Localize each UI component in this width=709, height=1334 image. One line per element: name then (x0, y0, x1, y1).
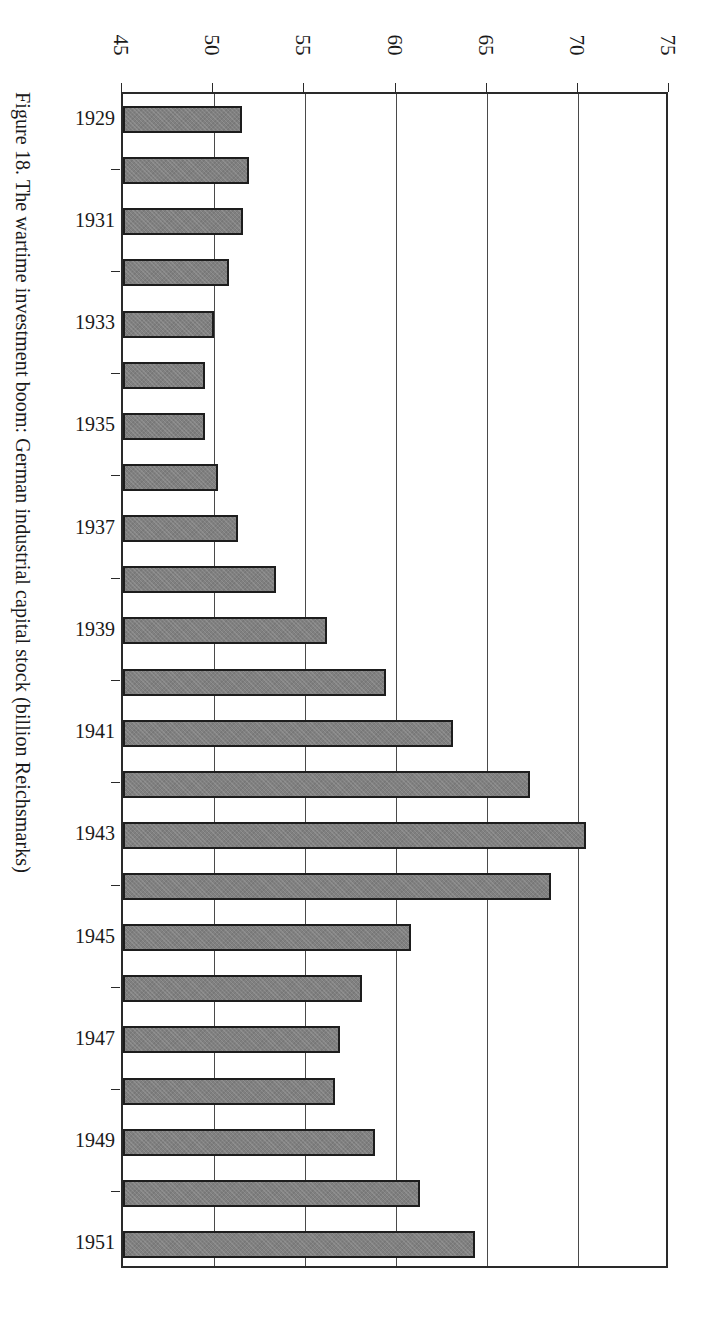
bar-1950 (123, 1180, 420, 1207)
bar-1942 (123, 771, 530, 798)
y-axis-label-1939: 1939 (51, 618, 121, 640)
y-axis-tick-1946 (111, 987, 120, 988)
x-tick-45 (121, 83, 122, 92)
x-axis: 45505560657075 (0, 0, 709, 92)
bar-1946 (123, 975, 362, 1002)
bar-1935 (123, 413, 205, 440)
y-axis-tick-1948 (111, 1089, 120, 1090)
x-tick-label-55: 55 (292, 22, 314, 68)
x-tick-75 (668, 83, 669, 92)
bar-1934 (123, 362, 205, 389)
y-axis-label-1941: 1941 (51, 720, 121, 742)
x-tick-label-60: 60 (384, 22, 406, 68)
bar-1930 (123, 157, 249, 184)
y-axis-label-1937: 1937 (51, 516, 121, 538)
bar-1949 (123, 1129, 375, 1156)
bar-1951 (123, 1231, 475, 1258)
x-tick-60 (395, 83, 396, 92)
bar-1945 (123, 924, 411, 951)
figure-root: Figure 18. The wartime investment boom: … (0, 0, 709, 1334)
figure-caption: Figure 18. The wartime investment boom: … (0, 0, 46, 1334)
y-axis-tick-1944 (111, 885, 120, 886)
y-axis-tick-1938 (111, 578, 120, 579)
bar-1929 (123, 106, 242, 133)
y-axis-label-1933: 1933 (51, 311, 121, 333)
y-axis-label-1947: 1947 (51, 1027, 121, 1049)
y-axis-tick-1936 (111, 475, 120, 476)
plot-area (121, 92, 668, 1268)
bar-1943 (123, 822, 586, 849)
bar-1931 (123, 208, 243, 235)
bar-1939 (123, 617, 327, 644)
y-axis-category-labels: 1929193119331935193719391941194319451947… (41, 92, 121, 1268)
x-tick-label-50: 50 (201, 22, 223, 68)
y-axis-label-1945: 1945 (51, 925, 121, 947)
y-axis-tick-1942 (111, 782, 120, 783)
y-axis-label-1951: 1951 (51, 1231, 121, 1253)
y-axis-tick-1930 (111, 169, 120, 170)
x-tick-50 (212, 83, 213, 92)
bar-1932 (123, 259, 229, 286)
bar-1940 (123, 669, 386, 696)
bar-1938 (123, 566, 276, 593)
y-axis-tick-1950 (111, 1191, 120, 1192)
y-axis-tick-1940 (111, 680, 120, 681)
y-axis-tick-1932 (111, 271, 120, 272)
x-tick-label-75: 75 (657, 22, 679, 68)
x-tick-55 (303, 83, 304, 92)
y-axis-label-1949: 1949 (51, 1129, 121, 1151)
bar-1936 (123, 464, 218, 491)
bar-1937 (123, 515, 238, 542)
y-axis-tick-1934 (111, 373, 120, 374)
x-tick-label-45: 45 (110, 22, 132, 68)
x-tick-70 (577, 83, 578, 92)
x-tick-65 (486, 83, 487, 92)
y-axis-label-1935: 1935 (51, 413, 121, 435)
x-tick-label-65: 65 (475, 22, 497, 68)
bar-1944 (123, 873, 551, 900)
y-axis-label-1943: 1943 (51, 822, 121, 844)
y-axis-label-1929: 1929 (51, 107, 121, 129)
bar-1948 (123, 1078, 335, 1105)
bar-1941 (123, 720, 453, 747)
bar-1947 (123, 1026, 340, 1053)
gridline-65 (487, 94, 488, 1266)
gridline-70 (578, 94, 579, 1266)
bar-1933 (123, 311, 214, 338)
y-axis-label-1931: 1931 (51, 209, 121, 231)
x-tick-label-70: 70 (566, 22, 588, 68)
gridline-60 (396, 94, 397, 1266)
